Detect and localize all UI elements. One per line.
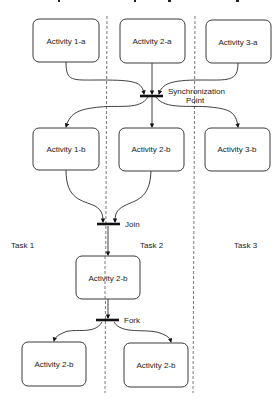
- activity-label: Activity 1-b: [46, 145, 86, 154]
- edge-fork-left: [54, 322, 102, 341]
- activity-2b-bottom-right[interactable]: Activity 2-b: [124, 343, 188, 387]
- title-fragment: [58, 0, 239, 2]
- activity-label: Activity 2-b: [88, 274, 128, 283]
- join-label: Join: [125, 220, 140, 229]
- activity-3b[interactable]: Activity 3-b: [205, 128, 270, 171]
- activity-diagram: Synchronization Point Join Fork Activity…: [0, 0, 279, 402]
- lane-label-task3: Task 3: [234, 241, 258, 250]
- activity-2b-middle[interactable]: Activity 2-b: [76, 256, 140, 299]
- edge-a2b-join: [115, 171, 151, 222]
- fork-label: Fork: [124, 316, 141, 325]
- activity-label: Activity 2-b: [131, 145, 171, 154]
- activity-1b[interactable]: Activity 1-b: [33, 128, 99, 170]
- activity-label: Activity 3-b: [217, 145, 257, 154]
- edge-a1b-join: [66, 170, 103, 222]
- lane-label-task2: Task 2: [140, 241, 164, 250]
- activity-label: Activity 2-a: [132, 37, 172, 46]
- lane-label-task1: Task 1: [11, 241, 35, 250]
- activity-2b[interactable]: Activity 2-b: [119, 128, 184, 171]
- activity-1a[interactable]: Activity 1-a: [33, 19, 99, 62]
- activity-label: Activity 1-a: [46, 37, 86, 46]
- activity-2a[interactable]: Activity 2-a: [120, 19, 185, 63]
- edge-fork-right: [114, 322, 171, 342]
- edge-a1a-sync: [66, 62, 144, 94]
- edges: [54, 62, 238, 342]
- lane-separator-2: [193, 16, 195, 393]
- edge-sync-a1b: [66, 97, 148, 127]
- activity-label: Activity 2-b: [34, 360, 74, 369]
- activity-2b-bottom-left[interactable]: Activity 2-b: [22, 342, 86, 386]
- activity-label: Activity 2-b: [136, 361, 176, 370]
- activity-3a[interactable]: Activity 3-a: [206, 20, 271, 63]
- sync-label-line2: Point: [186, 96, 205, 105]
- sync-label-line1: Synchronization: [168, 87, 225, 96]
- activity-label: Activity 3-a: [218, 38, 258, 47]
- lane-separator-1: [105, 16, 107, 393]
